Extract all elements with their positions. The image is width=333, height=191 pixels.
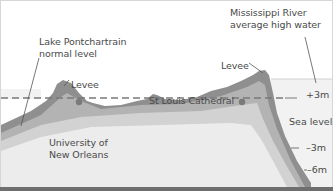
bottom-border (0, 187, 333, 191)
cathedral-marker (239, 99, 245, 105)
scale-plus3: +3m (306, 89, 329, 101)
river-label: Mississippi River average high water (230, 7, 321, 31)
diagram-frame: Lake Pontchartrain normal level Mississi… (0, 0, 333, 188)
river-label-line2: average high water (230, 19, 321, 31)
levee-left-label: Levee (71, 79, 99, 91)
cathedral-label: St Louis Cathedral (149, 95, 234, 107)
university-marker (76, 99, 82, 105)
river-leader-line (305, 37, 316, 83)
river-label-line1: Mississippi River (230, 7, 321, 19)
university-label: University of New Orleans (49, 137, 108, 161)
lake-label-line2: normal level (39, 48, 126, 60)
university-label-line2: New Orleans (49, 149, 108, 161)
university-label-line1: University of (49, 137, 108, 149)
scale-sea-level: Sea level (289, 116, 332, 128)
lake-label-line1: Lake Pontchartrain (39, 36, 126, 48)
lake-label: Lake Pontchartrain normal level (39, 36, 126, 60)
scale-minus6: –6m (307, 164, 327, 176)
scale-minus3: –3m (306, 142, 326, 154)
levee-right-label: Levee (221, 60, 249, 72)
levee-right-leader (249, 63, 263, 73)
